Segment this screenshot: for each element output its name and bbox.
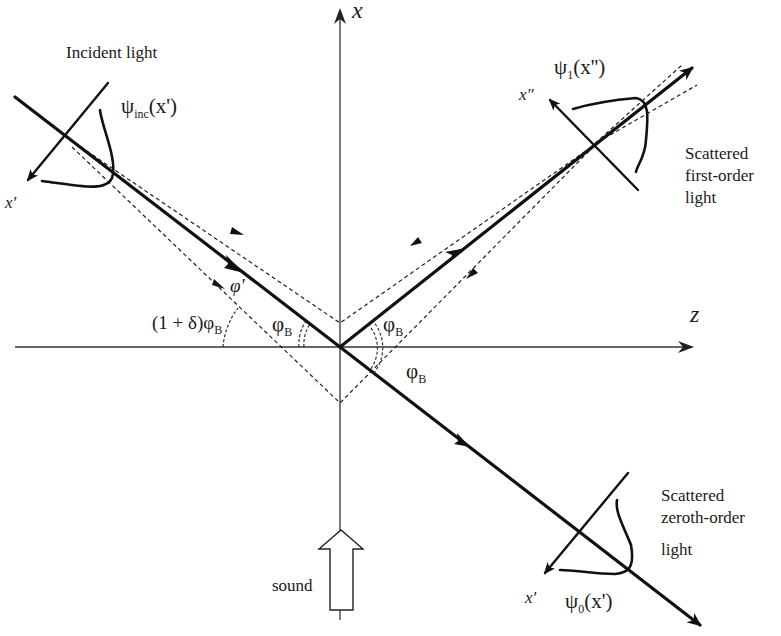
zeroth-order-profile: Scattered zeroth-order light x' ψ0(x') — [524, 473, 745, 616]
psi-inc-label: ψinc(x') — [121, 94, 177, 121]
incident-angle-arc-1 — [299, 321, 306, 347]
dash-arrow-upper-in — [230, 227, 244, 235]
x-prime-zeroth-label: x' — [524, 588, 537, 607]
axes: x z — [15, 0, 700, 620]
dash-arrow-lower-out — [466, 268, 478, 279]
first-order-label-2: first-order — [685, 166, 754, 185]
x-prime-incident-label: x' — [4, 193, 17, 212]
x-axis-label: x — [351, 0, 363, 23]
incident-profile: Incident light ψinc(x') x' — [4, 43, 177, 212]
angle-labels: φ' (1 + δ)φB φB φB φB — [152, 275, 426, 386]
off-bragg-arc — [223, 308, 238, 347]
zeroth-order-label-3: light — [661, 540, 692, 559]
psi-1-label: ψ1(x'') — [554, 55, 605, 82]
first-order-mid-arrow — [445, 248, 466, 261]
zeroth-order-label-1: Scattered — [661, 486, 725, 505]
sound-arrow-icon — [319, 530, 363, 610]
z-axis-label: z — [689, 301, 700, 327]
incident-beam — [15, 97, 340, 347]
dash-arrow-upper-out — [410, 237, 422, 246]
incident-phi-b-label: φB — [272, 312, 292, 339]
sound-indicator: sound — [272, 530, 363, 610]
first-order-phi-b-label: φB — [383, 312, 403, 339]
incident-x-prime-axis — [28, 83, 108, 180]
first-order-label-3: light — [685, 188, 716, 207]
sound-label: sound — [272, 576, 313, 595]
dash-arrow-lower-in — [212, 279, 225, 289]
zeroth-order-label-2: zeroth-order — [661, 508, 745, 527]
first-order-profile: ψ1(x'') x" Scattered first-order light — [518, 55, 754, 207]
x-double-prime-label: x" — [518, 85, 535, 104]
acousto-optic-diagram: x z Incident light ψinc — [0, 0, 781, 636]
lower-dashed-ray — [72, 142, 598, 403]
psi-0-label: ψ0(x') — [565, 589, 612, 616]
upper-dashed-ray — [75, 143, 590, 323]
zeroth-order-beam — [340, 347, 700, 625]
zeroth-order-phi-b-label: φB — [406, 359, 426, 386]
incident-angle-arc-2 — [304, 324, 310, 347]
off-bragg-angle-label: (1 + δ)φB — [152, 312, 222, 337]
first-order-label-1: Scattered — [685, 144, 749, 163]
incident-light-label: Incident light — [66, 43, 157, 62]
incident-beam-arrow — [224, 255, 244, 273]
first-order-beam — [340, 68, 692, 347]
phi-prime-label: φ' — [230, 275, 246, 296]
